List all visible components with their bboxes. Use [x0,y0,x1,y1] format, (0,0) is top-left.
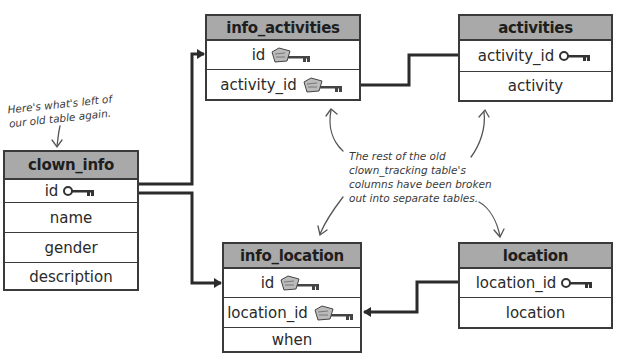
annotation-line: clown_tracking table's [349,163,492,177]
column-name: location_id [227,304,308,322]
table-location[interactable]: location location_id location [458,242,613,329]
column-row-gender[interactable]: gender [5,233,137,263]
table-clown-info[interactable]: clown_info id name gender description [3,150,139,291]
column-row-activity-id[interactable]: activity_id [460,41,611,72]
column-row-name[interactable]: name [5,203,137,233]
table-info-activities[interactable]: info_activities id activity_id [205,14,361,101]
table-activities[interactable]: activities activity_id activity [458,14,613,102]
column-name: activity_id [478,47,554,65]
column-name: activity [508,77,563,95]
column-name: id [45,182,59,200]
column-name: location [506,304,566,322]
column-name: description [29,268,112,286]
center-annotation: The rest of the old clown_tracking table… [349,149,492,205]
primary-key-icon [559,50,593,62]
column-name: location_id [476,274,557,292]
column-name: when [272,331,313,349]
table-header: info_activities [207,16,359,41]
annotation-line: columns have been broken [349,177,492,191]
foreign-key-icon [313,304,357,322]
column-row-location-id[interactable]: location_id [224,298,360,328]
annotation-line: out into separate tables. [349,191,492,205]
column-row-description[interactable]: description [5,263,137,291]
column-row-when[interactable]: when [224,328,360,351]
column-row-activity-id[interactable]: activity_id [207,70,359,99]
column-row-id[interactable]: id [224,269,360,298]
column-name: activity_id [220,76,296,94]
table-header: clown_info [5,152,137,180]
column-row-location[interactable]: location [460,298,611,327]
foreign-key-icon [279,274,323,292]
column-row-activity[interactable]: activity [460,72,611,100]
table-info-location[interactable]: info_location id location_id when [222,242,362,353]
column-row-location-id[interactable]: location_id [460,269,611,298]
foreign-key-icon [270,46,314,64]
relationship-line-clown-to-info-activities [131,54,204,184]
table-header: info_location [224,244,360,269]
primary-key-icon [561,277,595,289]
primary-key-icon [63,185,97,197]
column-name: id [252,46,266,64]
foreign-key-icon [302,76,346,94]
column-name: name [50,209,93,227]
annotation-line: The rest of the old [349,149,492,163]
table-header: activities [460,16,611,41]
left-annotation: Here's what's left of our old table agai… [7,92,114,131]
column-row-id[interactable]: id [5,180,137,203]
relationship-line-location-to-info-location [364,282,469,312]
column-row-id[interactable]: id [207,41,359,70]
column-name: gender [44,239,97,257]
relationship-line-activities-to-info-activities [353,55,469,85]
table-header: location [460,244,611,269]
relationship-line-clown-to-info-location [131,193,221,283]
column-name: id [261,274,275,292]
